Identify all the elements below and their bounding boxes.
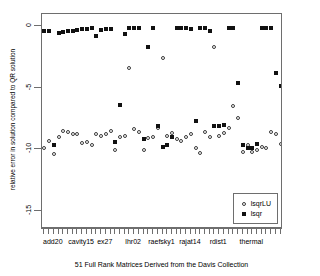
x-tick-mark: [86, 229, 87, 234]
x-tick-mark: [43, 229, 44, 234]
data-point-lsqrlu: [184, 135, 188, 139]
x-tick-mark: [152, 229, 153, 234]
data-point-lsqr: [66, 29, 70, 33]
data-point-lsqrlu: [61, 129, 65, 133]
data-point-lsqr: [146, 45, 150, 49]
data-point-lsqr: [109, 27, 113, 31]
data-point-lsqr: [57, 31, 61, 35]
data-point-lsqr: [170, 135, 174, 139]
x-tick-mark: [176, 229, 177, 234]
data-point-lsqrlu: [274, 132, 278, 136]
x-tick-mark: [67, 229, 68, 234]
x-axis-caption: 51 Full Rank Matrices Derived from the D…: [41, 261, 282, 269]
data-point-lsqrlu: [132, 127, 136, 131]
data-point-lsqr: [132, 26, 136, 30]
data-point-lsqrlu: [137, 130, 141, 134]
x-tick-mark: [76, 229, 77, 234]
plot-frame: lsqrLU lsqr: [41, 13, 282, 228]
x-tick-label-rajat14: rajat14: [179, 238, 200, 246]
x-tick-mark: [105, 229, 106, 234]
y-tick-label: -10: [25, 142, 32, 154]
filled-square-icon: [239, 212, 249, 216]
data-point-lsqrlu: [71, 132, 75, 136]
data-point-lsqrlu: [151, 135, 155, 139]
data-point-lsqr: [184, 26, 188, 30]
x-tick-mark: [72, 229, 73, 234]
data-point-lsqr: [231, 26, 235, 30]
data-point-lsqr: [137, 26, 141, 30]
legend-item-lsqr: lsqr: [239, 209, 271, 218]
x-tick-label-cavity15: cavity15: [68, 238, 94, 246]
data-point-lsqr: [222, 123, 226, 127]
data-point-lsqrlu: [94, 132, 98, 136]
data-point-lsqrlu: [260, 145, 264, 149]
x-tick-label-add20: add20: [43, 238, 62, 246]
x-tick-mark: [147, 229, 148, 234]
data-point-lsqrlu: [127, 66, 131, 70]
data-point-lsqrlu: [208, 135, 212, 139]
data-point-lsqrlu: [231, 104, 235, 108]
data-point-lsqr: [156, 124, 160, 128]
data-point-lsqr: [264, 26, 268, 30]
data-point-lsqr: [61, 30, 65, 34]
x-tick-mark: [190, 229, 191, 234]
data-point-lsqr: [246, 146, 250, 150]
data-point-lsqr: [250, 146, 254, 150]
x-tick-mark: [242, 229, 243, 234]
data-point-lsqrlu: [269, 130, 273, 134]
data-point-lsqr: [236, 81, 240, 85]
x-tick-label-lhr02: lhr02: [125, 238, 141, 246]
x-tick-label-ex27: ex27: [97, 238, 112, 246]
data-point-lsqrlu: [118, 135, 122, 139]
data-point-lsqr: [118, 103, 122, 107]
data-point-lsqrlu: [90, 143, 94, 147]
data-point-lsqrlu: [217, 134, 221, 138]
data-point-lsqrlu: [250, 150, 254, 154]
x-tick-mark: [119, 229, 120, 234]
x-tick-mark: [223, 229, 224, 234]
x-tick-mark: [91, 229, 92, 234]
data-point-lsqr: [217, 124, 221, 128]
x-tick-mark: [180, 229, 181, 234]
x-tick-mark: [265, 229, 266, 234]
x-tick-mark: [209, 229, 210, 234]
data-point-lsqrlu: [212, 45, 216, 49]
data-point-lsqrlu: [264, 146, 268, 150]
data-point-lsqrlu: [198, 151, 202, 155]
data-point-lsqrlu: [57, 135, 61, 139]
data-point-lsqrlu: [236, 116, 240, 120]
data-point-lsqrlu: [255, 148, 259, 152]
x-tick-mark: [228, 229, 229, 234]
data-point-lsqr: [274, 71, 278, 75]
data-point-lsqr: [90, 26, 94, 30]
x-tick-mark: [95, 229, 96, 234]
data-point-lsqrlu: [85, 140, 89, 144]
x-tick-mark: [280, 229, 281, 234]
x-tick-mark: [275, 229, 276, 234]
data-point-lsqrlu: [279, 142, 281, 146]
x-tick-mark: [100, 229, 101, 234]
x-tick-mark: [204, 229, 205, 234]
y-tick-mark: [34, 25, 41, 26]
legend-label-lsqrlu: lsqrLU: [251, 200, 271, 208]
x-tick-mark: [195, 229, 196, 234]
data-point-lsqrlu: [203, 130, 207, 134]
data-point-lsqr: [189, 27, 193, 31]
x-tick-mark: [157, 229, 158, 234]
x-tick-mark: [114, 229, 115, 234]
data-point-lsqr: [255, 142, 259, 146]
data-point-lsqr: [123, 32, 127, 36]
data-point-lsqrlu: [189, 132, 193, 136]
data-point-lsqrlu: [194, 146, 198, 150]
x-tick-mark: [237, 229, 238, 234]
data-point-lsqr: [99, 28, 103, 32]
data-point-lsqr: [198, 26, 202, 30]
data-point-lsqr: [227, 26, 231, 30]
data-point-lsqr: [161, 145, 165, 149]
x-tick-mark: [261, 229, 262, 234]
x-tick-mark: [251, 229, 252, 234]
x-tick-mark: [81, 229, 82, 234]
data-point-lsqr: [52, 143, 56, 147]
y-tick-mark: [34, 210, 41, 211]
x-tick-label-rdist1: rdist1: [210, 238, 227, 246]
